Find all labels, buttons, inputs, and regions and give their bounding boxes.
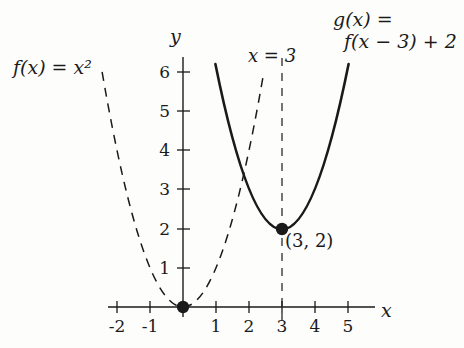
x-tick-label: 2 (244, 316, 255, 336)
vertical-line-label: x = 3 (248, 46, 296, 67)
curve-label-g-line2: f(x − 3) + 2 (344, 31, 457, 53)
origin-point-marker (177, 301, 189, 313)
y-tick-label: 6 (148, 62, 170, 82)
x-tick-label: 5 (343, 316, 354, 336)
x-tick-label: 3 (277, 316, 288, 336)
x-tick-label: -2 (109, 316, 126, 336)
curve-label-f: f(x) = x² (13, 57, 92, 79)
curve-label-g: g(x) = f(x − 3) + 2 (333, 9, 457, 53)
x-tick-label: -1 (142, 316, 159, 336)
x-tick-label: 4 (310, 316, 321, 336)
graph-figure: f(x) = x² g(x) = f(x − 3) + 2 x = 3 (3, … (0, 0, 464, 348)
y-tick-label: 5 (148, 101, 170, 121)
y-tick-label: 4 (148, 140, 170, 160)
y-tick-label: 2 (148, 219, 170, 239)
x-axis-label: x (381, 300, 392, 322)
y-tick-label: 1 (148, 258, 170, 278)
vertex-point-label: (3, 2) (285, 231, 333, 252)
x-tick-label: 1 (211, 316, 222, 336)
curve-label-g-line1: g(x) = (333, 8, 393, 30)
y-tick-label: 3 (148, 179, 170, 199)
y-axis-label: y (170, 26, 181, 48)
